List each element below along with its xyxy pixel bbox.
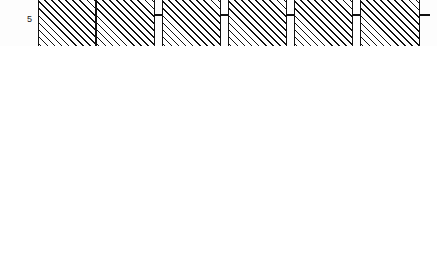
bar-feb bbox=[96, 0, 155, 46]
bar-apr bbox=[228, 0, 287, 46]
bar-mar bbox=[162, 0, 221, 46]
bar-series-thousands bbox=[38, 0, 430, 46]
bar-jun bbox=[360, 0, 420, 46]
bar-jan bbox=[38, 0, 96, 46]
bar-may bbox=[294, 0, 353, 46]
y-tick-label-5: 5 bbox=[6, 15, 32, 24]
bar-chart-figure: Thousands 5 4 3 2 1 Jan Mar May bbox=[0, 0, 437, 46]
